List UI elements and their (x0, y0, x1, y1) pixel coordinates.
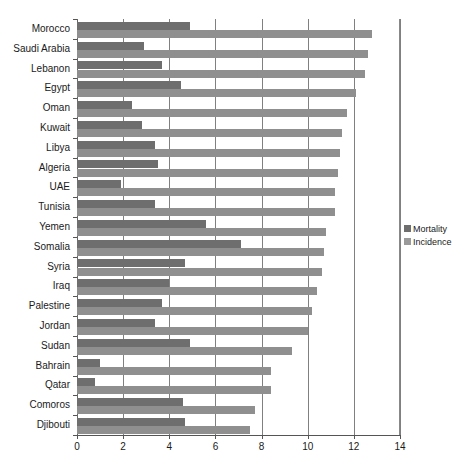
category-tick (73, 158, 77, 159)
bar-incidence-algeria (77, 169, 338, 177)
bar-mortality-yemen (77, 220, 206, 228)
category-tick (73, 415, 77, 416)
bar-mortality-kuwait (77, 121, 142, 129)
bar-mortality-libya (77, 141, 155, 149)
x-tick-4 (169, 435, 170, 439)
bar-incidence-oman (77, 109, 347, 117)
bar-mortality-sudan (77, 339, 190, 347)
category-tick (73, 376, 77, 377)
legend-swatch-mortality-icon (404, 225, 411, 232)
bar-mortality-oman (77, 101, 132, 109)
bar-incidence-sudan (77, 347, 292, 355)
legend-divider (399, 19, 400, 435)
x-tick-label: 8 (247, 441, 277, 453)
bar-mortality-tunisia (77, 200, 155, 208)
x-tick-label: 14 (385, 441, 415, 453)
bar-mortality-saudi-arabia (77, 42, 144, 50)
x-tick-label: 6 (200, 441, 230, 453)
bar-mortality-bahrain (77, 359, 100, 367)
x-tick-label: 12 (339, 441, 369, 453)
category-label-egypt: Egypt (44, 82, 70, 93)
category-label-tunisia: Tunisia (38, 201, 70, 212)
category-tick (73, 395, 77, 396)
x-tick-label: 4 (154, 441, 184, 453)
x-tick-8 (262, 435, 263, 439)
category-tick (73, 257, 77, 258)
category-tick (73, 316, 77, 317)
category-label-bahrain: Bahrain (36, 360, 70, 371)
bar-incidence-kuwait (77, 129, 342, 137)
legend-label-mortality: Mortality (413, 224, 447, 234)
category-label-somalia: Somalia (34, 241, 70, 252)
category-label-iraq: Iraq (53, 280, 70, 291)
x-tick-label: 10 (293, 441, 323, 453)
bar-mortality-lebanon (77, 61, 162, 69)
x-tick-label: 0 (62, 441, 92, 453)
bar-mortality-algeria (77, 160, 158, 168)
category-tick (73, 177, 77, 178)
bar-incidence-iraq (77, 287, 317, 295)
bar-incidence-somalia (77, 248, 324, 256)
category-label-saudi-arabia: Saudi Arabia (13, 43, 70, 54)
bar-mortality-morocco (77, 22, 190, 30)
x-tick-10 (308, 435, 309, 439)
category-tick (73, 138, 77, 139)
bar-incidence-yemen (77, 228, 326, 236)
x-tick-0 (77, 435, 78, 439)
chart-legend: Mortality Incidence (404, 222, 462, 248)
bar-mortality-djibouti (77, 418, 185, 426)
x-tick-label: 2 (108, 441, 138, 453)
bar-mortality-comoros (77, 398, 183, 406)
category-label-libya: Libya (46, 142, 70, 153)
bar-incidence-jordan (77, 327, 308, 335)
category-tick (73, 217, 77, 218)
x-tick-14 (400, 435, 401, 439)
bar-mortality-iraq (77, 279, 169, 287)
category-label-morocco: Morocco (32, 23, 70, 34)
category-label-kuwait: Kuwait (40, 122, 70, 133)
legend-swatch-incidence-icon (404, 238, 411, 245)
plot-area (77, 19, 400, 435)
bar-incidence-palestine (77, 307, 312, 315)
category-label-qatar: Qatar (45, 379, 70, 390)
category-tick (73, 435, 77, 436)
category-label-jordan: Jordan (39, 320, 70, 331)
category-tick (73, 277, 77, 278)
bar-incidence-tunisia (77, 208, 335, 216)
bar-incidence-morocco (77, 30, 372, 38)
legend-label-incidence: Incidence (413, 237, 452, 247)
bar-incidence-saudi-arabia (77, 50, 368, 58)
category-label-algeria: Algeria (39, 162, 70, 173)
category-tick (73, 237, 77, 238)
category-label-palestine: Palestine (29, 300, 70, 311)
category-tick (73, 78, 77, 79)
bar-incidence-qatar (77, 386, 271, 394)
category-label-comoros: Comoros (29, 399, 70, 410)
x-tick-6 (215, 435, 216, 439)
legend-item-mortality: Mortality (404, 222, 462, 235)
category-label-djibouti: Djibouti (37, 419, 70, 430)
category-label-lebanon: Lebanon (31, 63, 70, 74)
category-label-sudan: Sudan (41, 340, 70, 351)
legend-item-incidence: Incidence (404, 235, 462, 248)
bar-mortality-qatar (77, 378, 95, 386)
category-tick (73, 197, 77, 198)
category-tick (73, 118, 77, 119)
bar-incidence-djibouti (77, 426, 250, 434)
bar-mortality-jordan (77, 319, 155, 327)
category-tick (73, 336, 77, 337)
x-tick-2 (123, 435, 124, 439)
bar-incidence-syria (77, 268, 322, 276)
category-label-oman: Oman (43, 102, 70, 113)
x-tick-12 (354, 435, 355, 439)
bar-incidence-lebanon (77, 70, 365, 78)
bar-mortality-somalia (77, 240, 241, 248)
category-tick (73, 98, 77, 99)
category-tick (73, 39, 77, 40)
x-axis-line (77, 435, 401, 436)
category-tick (73, 59, 77, 60)
bar-chart: 02468101214 MoroccoSaudi ArabiaLebanonEg… (0, 0, 465, 466)
category-tick (73, 356, 77, 357)
bar-incidence-egypt (77, 89, 356, 97)
bar-mortality-syria (77, 259, 185, 267)
